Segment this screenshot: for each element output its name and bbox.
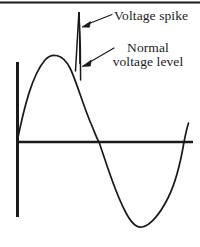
figure-background (0, 0, 200, 247)
normal-voltage-label-line2: voltage level (100, 55, 196, 69)
normal-voltage-label: Normal voltage level (100, 41, 196, 69)
voltage-spike-figure: Voltage spike Normal voltage level (0, 0, 200, 247)
voltage-spike-label: Voltage spike (114, 9, 188, 23)
normal-voltage-label-line1: Normal (100, 41, 196, 55)
waveform-diagram-svg (0, 0, 200, 247)
